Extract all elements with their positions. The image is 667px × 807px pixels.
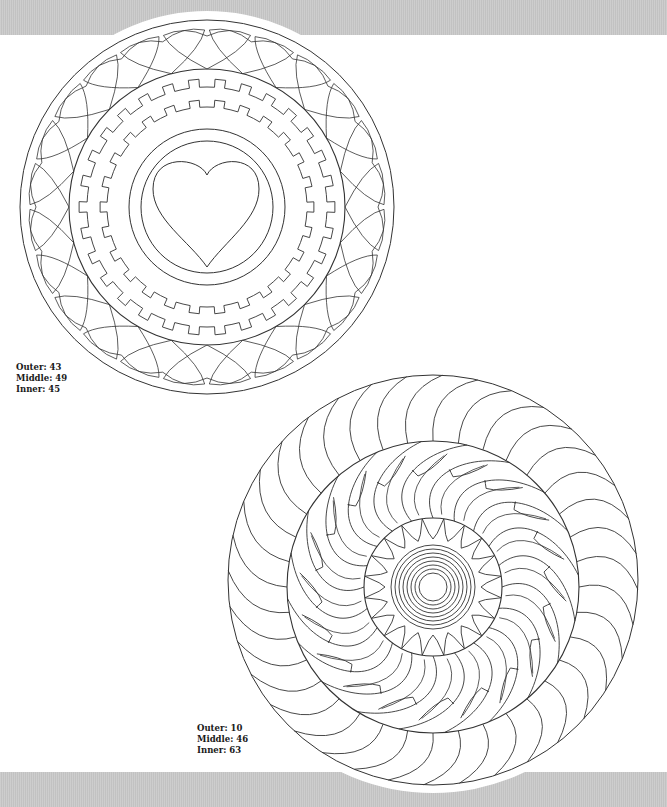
legend-inner: Inner: 45 — [16, 384, 67, 395]
legend-middle: Middle: 46 — [197, 734, 248, 745]
legend-middle: Middle: 49 — [16, 373, 67, 384]
coloring-page: Outer: 43 Middle: 49 Inner: 45 Outer: 10… — [0, 0, 667, 807]
mandala-artwork — [0, 0, 667, 807]
bottom-mandala-legend: Outer: 10 Middle: 46 Inner: 63 — [197, 723, 248, 756]
top-mandala-legend: Outer: 43 Middle: 49 Inner: 45 — [16, 362, 67, 395]
legend-outer: Outer: 10 — [197, 723, 248, 734]
legend-outer: Outer: 43 — [16, 362, 67, 373]
legend-inner: Inner: 63 — [197, 745, 248, 756]
